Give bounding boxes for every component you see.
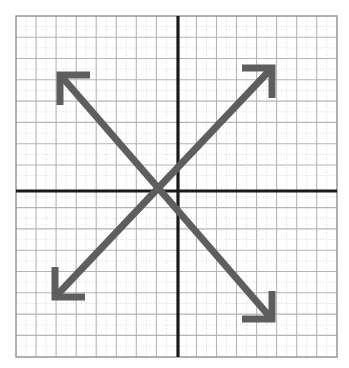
- coordinate-plane-graphic: [0, 0, 349, 368]
- graph-figure: [0, 0, 349, 368]
